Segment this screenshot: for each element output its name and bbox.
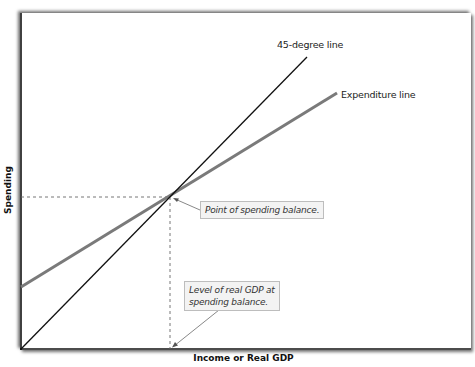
callout-text-line1: Level of real GDP at (189, 284, 275, 296)
callout-text: Point of spending balance. (205, 205, 319, 215)
chart-plot (0, 0, 475, 367)
expenditure-line (21, 93, 337, 287)
callout-arrow-balance (175, 199, 200, 210)
forty-five-degree-label: 45-degree line (277, 39, 343, 50)
arrowhead-icon (172, 342, 178, 348)
arrowhead-icon (173, 198, 179, 202)
y-axis-label: Spending (3, 166, 13, 214)
callout-arrow-gdp (174, 310, 219, 346)
expenditure-line-label: Expenditure line (341, 89, 415, 100)
x-axis-label: Income or Real GDP (0, 353, 475, 363)
point-of-balance-callout: Point of spending balance. (200, 201, 324, 219)
callout-text-line2: spending balance. (189, 296, 275, 308)
gdp-level-callout: Level of real GDP at spending balance. (184, 281, 280, 311)
